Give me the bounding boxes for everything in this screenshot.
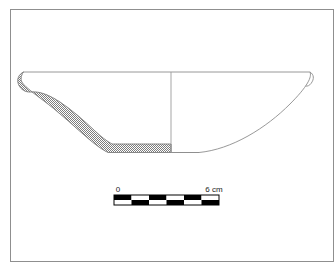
scale-start-label: 0 [116,185,121,194]
scale-segment [167,200,185,205]
scale-segment [184,195,202,200]
scale-segment [114,200,132,205]
scale-segment [184,200,202,205]
figure-frame [11,10,334,262]
scale-segment [114,195,132,200]
scale-segment [149,195,167,200]
scale-segment [132,195,150,200]
scale-bar-row-bottom [114,200,219,205]
scale-segment [202,195,220,200]
figure-canvas: 0 6 cm [0,0,335,271]
scale-end-label: 6 cm [205,185,223,194]
scale-segment [202,200,220,205]
scale-segment [167,195,185,200]
scale-segment [149,200,167,205]
pottery-profile-illustration: 0 6 cm [0,0,335,271]
scale-segment [132,200,150,205]
scale-bar-row-top [114,195,219,200]
